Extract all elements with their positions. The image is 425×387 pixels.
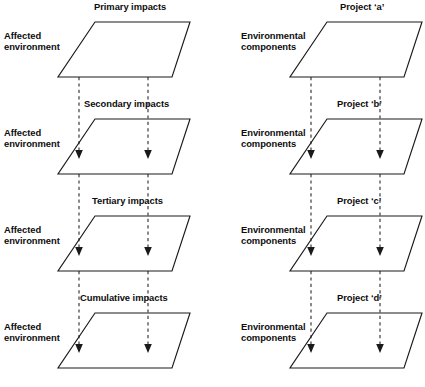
plane-cumulative (58, 313, 190, 368)
arrow-head-left-4 (144, 150, 152, 159)
plane-tertiary (58, 216, 190, 271)
diagram-canvas: Primary impacts Affected environment Sec… (0, 0, 425, 387)
right-planes (290, 22, 422, 368)
arrow-head-left-1 (75, 150, 83, 159)
arrow-heads (75, 150, 384, 353)
arrow-head-right-4 (376, 150, 384, 159)
plane-secondary (58, 119, 190, 174)
arrow-head-right-3 (307, 344, 315, 353)
plane-primary (58, 22, 190, 77)
plane-project-d (290, 313, 422, 368)
arrow-head-left-2 (75, 247, 83, 256)
arrow-head-right-5 (376, 247, 384, 256)
plane-project-c (290, 216, 422, 271)
arrow-head-right-2 (307, 247, 315, 256)
diagram-vector-layer (0, 0, 425, 387)
plane-project-a (290, 22, 422, 77)
arrow-head-right-6 (376, 344, 384, 353)
left-planes (58, 22, 190, 368)
plane-project-b (290, 119, 422, 174)
arrow-head-left-3 (75, 344, 83, 353)
arrow-head-left-6 (144, 344, 152, 353)
arrow-head-left-5 (144, 247, 152, 256)
arrow-head-right-1 (307, 150, 315, 159)
